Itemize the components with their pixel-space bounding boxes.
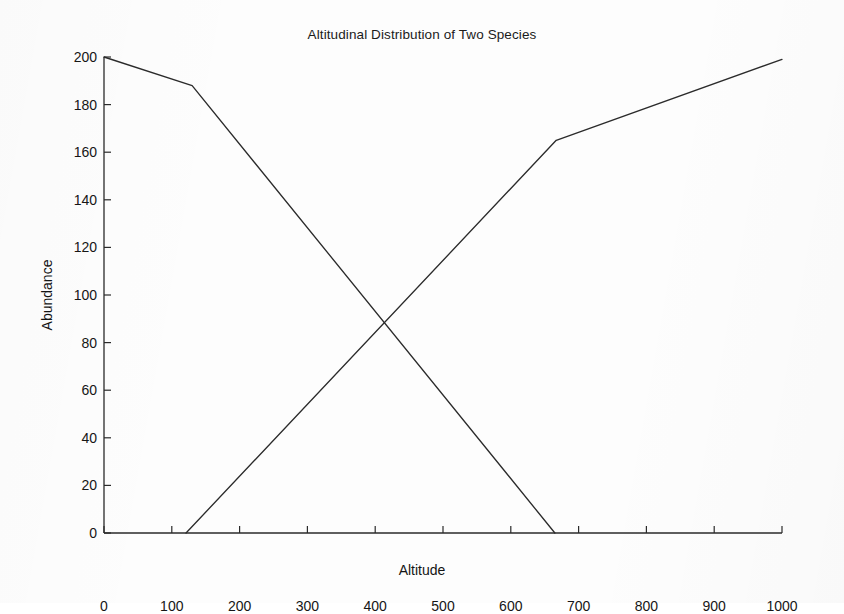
y-tick-label: 160 (74, 144, 104, 160)
y-axis-label: Abundance (39, 57, 59, 533)
y-tick-label: 20 (81, 477, 104, 493)
data-series-line (104, 57, 555, 533)
x-tick-label: 800 (635, 598, 658, 614)
x-tick-label: 900 (703, 598, 726, 614)
x-axis-label: Altitude (0, 562, 844, 578)
data-series-layer (104, 57, 782, 533)
x-tick-label: 600 (499, 598, 522, 614)
x-axis-ticks (104, 526, 782, 533)
y-tick-label: 40 (81, 430, 104, 446)
y-tick-label: 200 (74, 49, 104, 65)
plot-svg (104, 57, 782, 533)
x-tick-label: 700 (567, 598, 590, 614)
y-tick-label: 140 (74, 192, 104, 208)
y-tick-label: 100 (74, 287, 104, 303)
x-tick-label: 300 (296, 598, 319, 614)
axis-spines (104, 57, 782, 533)
y-tick-label: 180 (74, 97, 104, 113)
y-tick-label: 60 (81, 382, 104, 398)
x-tick-label: 400 (364, 598, 387, 614)
chart-title: Altitudinal Distribution of Two Species (0, 27, 844, 42)
plot-area: 020406080100120140160180200 010020030040… (104, 57, 782, 533)
x-tick-label: 200 (228, 598, 251, 614)
x-tick-label: 500 (431, 598, 454, 614)
y-tick-label: 120 (74, 239, 104, 255)
y-axis-ticks (104, 57, 111, 533)
x-tick-label: 1000 (766, 598, 797, 614)
x-tick-label: 0 (100, 598, 108, 614)
y-tick-label: 0 (89, 525, 104, 541)
data-series-line (186, 59, 782, 533)
x-tick-label: 100 (160, 598, 183, 614)
y-tick-label: 80 (81, 335, 104, 351)
